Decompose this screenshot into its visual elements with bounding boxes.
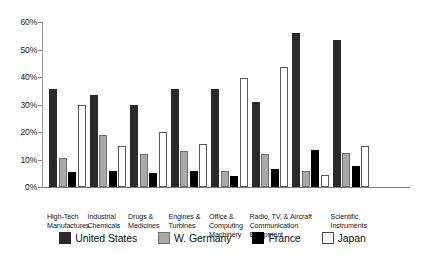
bar-chart: 0%10%20%30%40%50%60% High-TechManufactur…	[0, 0, 425, 261]
y-axis-tick-label: 10%	[21, 155, 37, 165]
legend-item-label: France	[268, 232, 300, 244]
bar-france	[190, 171, 198, 188]
category-label-line: Communication	[250, 221, 295, 230]
category-label-line: Medicines	[128, 221, 173, 230]
legend-item-label: W. Germany	[174, 232, 231, 244]
legend-item-label: United States	[75, 232, 137, 244]
bar-japan	[321, 175, 329, 187]
y-axis-tick-mark	[38, 105, 42, 106]
legend-item-japan[interactable]: Japan	[322, 232, 366, 244]
y-axis-tick-mark	[38, 160, 42, 161]
bar-germany	[180, 151, 188, 187]
bar-japan	[361, 146, 369, 187]
y-axis-tick-label: 0%	[25, 182, 37, 192]
bar-japan	[199, 144, 207, 187]
bar-group	[333, 22, 370, 187]
y-axis-tick-mark	[38, 22, 42, 23]
bar-group	[90, 22, 127, 187]
bar-us	[333, 40, 341, 187]
bar-france	[109, 171, 117, 188]
bar-us	[90, 95, 98, 187]
y-axis-tick-mark	[38, 77, 42, 78]
legend-item-label: Japan	[338, 232, 366, 244]
bar-japan	[118, 146, 126, 187]
category-label-line: Radio, TV, &	[250, 212, 295, 221]
bar-germany	[59, 158, 67, 187]
category-label: Drugs &Medicines	[128, 212, 173, 230]
category-label: Aircraft	[290, 212, 335, 221]
bar-us	[49, 89, 57, 187]
y-axis-tick-label: 20%	[21, 127, 37, 137]
bar-germany	[221, 171, 229, 188]
legend-swatch-icon	[252, 232, 264, 244]
bar-group	[292, 22, 329, 187]
legend-swatch-icon	[59, 232, 71, 244]
y-axis-tick-label: 30%	[21, 100, 37, 110]
y-axis-tick-label: 60%	[21, 17, 37, 27]
y-axis-tick-mark	[38, 187, 42, 188]
category-label-line: Computing	[209, 221, 254, 230]
category-label: IndustrialChemicals	[88, 212, 133, 230]
category-label-line: Chemicals	[88, 221, 133, 230]
bar-france	[230, 176, 238, 187]
bar-us	[130, 105, 138, 188]
bar-france	[311, 150, 319, 187]
y-axis-tick-mark	[38, 132, 42, 133]
y-axis-line	[42, 22, 43, 187]
category-label-line: Drugs &	[128, 212, 173, 221]
bar-group	[49, 22, 86, 187]
bar-germany	[99, 135, 107, 187]
x-axis-line	[42, 187, 410, 188]
bar-japan	[240, 78, 248, 187]
category-label-line: Office &	[209, 212, 254, 221]
y-axis-tick-label: 40%	[21, 72, 37, 82]
bar-germany	[302, 171, 310, 188]
bar-us	[211, 89, 219, 187]
bar-japan	[78, 105, 86, 188]
bar-france	[149, 173, 157, 187]
bar-group	[130, 22, 167, 187]
y-axis-tick-label: 50%	[21, 45, 37, 55]
category-label-line: Engines &	[169, 212, 214, 221]
legend-item-germany[interactable]: W. Germany	[158, 232, 231, 244]
bar-france	[68, 172, 76, 187]
plot-area: 0%10%20%30%40%50%60% High-TechManufactur…	[42, 18, 412, 191]
category-label-line: Industrial	[88, 212, 133, 221]
category-label-line: High-Tech	[47, 212, 92, 221]
y-axis-tick-mark	[38, 50, 42, 51]
category-label-line: Scientific	[331, 212, 376, 221]
category-label-line: Aircraft	[290, 212, 335, 221]
legend-item-us[interactable]: United States	[59, 232, 137, 244]
legend-swatch-icon	[322, 232, 334, 244]
category-label: Engines &Turbines	[169, 212, 214, 230]
bar-japan	[280, 67, 288, 187]
bar-germany	[342, 153, 350, 187]
category-label: High-TechManufactures	[47, 212, 92, 230]
bar-us	[171, 89, 179, 187]
bar-group	[171, 22, 208, 187]
category-label: ScientificInstruments	[331, 212, 376, 230]
bar-group	[211, 22, 248, 187]
bar-germany	[140, 154, 148, 187]
bar-germany	[261, 154, 269, 187]
legend-swatch-icon	[158, 232, 170, 244]
chart-legend: United StatesW. GermanyFranceJapan	[0, 232, 425, 244]
bar-france	[352, 166, 360, 187]
bar-france	[271, 169, 279, 187]
bar-us	[292, 33, 300, 187]
category-label-line: Manufactures	[47, 221, 92, 230]
bar-us	[252, 102, 260, 187]
bar-group	[252, 22, 289, 187]
category-label-line: Instruments	[331, 221, 376, 230]
category-label-line: Turbines	[169, 221, 214, 230]
bar-japan	[159, 132, 167, 187]
legend-item-france[interactable]: France	[252, 232, 300, 244]
